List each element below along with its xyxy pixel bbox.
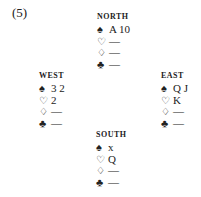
spades-cards: Q J <box>173 82 188 94</box>
club-icon: ♣ <box>97 59 109 71</box>
diamonds-cards: — <box>51 105 62 117</box>
hand-label: WEST <box>39 71 65 81</box>
spades-cards: A 10 <box>109 23 130 35</box>
clubs-row: ♣— <box>39 118 65 130</box>
spade-icon: ♠ <box>97 24 109 36</box>
hand-label: SOUTH <box>96 130 127 140</box>
clubs-row: ♣— <box>96 177 127 189</box>
club-icon: ♣ <box>39 118 51 130</box>
diamonds-cards: — <box>108 164 119 176</box>
club-icon: ♣ <box>96 177 108 189</box>
clubs-cards: — <box>51 117 62 129</box>
south-hand: SOUTH ♠x ♡Q ♢— ♣— <box>96 130 127 188</box>
diamond-icon: ♢ <box>39 106 51 118</box>
hearts-cards: 2 <box>51 94 57 106</box>
club-icon: ♣ <box>161 118 173 130</box>
clubs-row: ♣— <box>97 59 130 71</box>
diamonds-cards: — <box>109 46 120 58</box>
hand-label: EAST <box>161 71 188 81</box>
diamond-icon: ♢ <box>161 106 173 118</box>
heart-icon: ♡ <box>39 95 51 107</box>
diamond-icon: ♢ <box>97 47 109 59</box>
spade-icon: ♠ <box>39 83 51 95</box>
problem-number: (5) <box>12 5 27 21</box>
east-hand: EAST ♠Q J ♡K ♢— ♣— <box>161 71 188 129</box>
clubs-row: ♣— <box>161 118 188 130</box>
hearts-cards: K <box>173 94 181 106</box>
heart-icon: ♡ <box>97 36 109 48</box>
clubs-cards: — <box>173 117 184 129</box>
diamonds-cards: — <box>173 105 184 117</box>
heart-icon: ♡ <box>161 95 173 107</box>
clubs-cards: — <box>109 58 120 70</box>
north-hand: NORTH ♠A 10 ♡— ♢— ♣— <box>97 12 130 70</box>
hearts-cards: Q <box>108 153 116 165</box>
heart-icon: ♡ <box>96 154 108 166</box>
clubs-cards: — <box>108 176 119 188</box>
spade-icon: ♠ <box>96 142 108 154</box>
diamond-icon: ♢ <box>96 165 108 177</box>
spades-cards: 3 2 <box>51 82 65 94</box>
west-hand: WEST ♠3 2 ♡2 ♢— ♣— <box>39 71 65 129</box>
spades-cards: x <box>108 141 114 153</box>
hand-label: NORTH <box>97 12 130 22</box>
spade-icon: ♠ <box>161 83 173 95</box>
hearts-cards: — <box>109 35 120 47</box>
